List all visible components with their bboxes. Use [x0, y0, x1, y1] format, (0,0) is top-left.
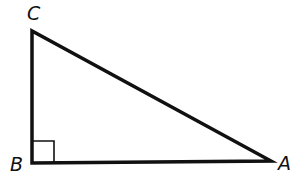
vertex-label-c: C — [27, 2, 41, 24]
right-angle-marker — [33, 141, 54, 162]
vertex-label-b: B — [10, 153, 23, 175]
triangle-abc — [32, 31, 271, 163]
vertex-label-a: A — [276, 152, 291, 174]
right-triangle-diagram: C B A — [0, 0, 304, 187]
